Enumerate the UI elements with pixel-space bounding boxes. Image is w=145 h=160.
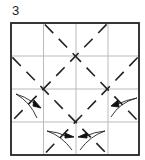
arrowhead-icon [78, 133, 87, 138]
grid-lines [11, 23, 139, 155]
arrowhead-icon [33, 100, 41, 108]
fold-arrow-right [111, 98, 137, 117]
arrowhead-icon [111, 100, 119, 107]
fold-diagram [0, 0, 145, 160]
arrowhead-icon [65, 133, 74, 138]
fold-arrow-left [16, 94, 41, 118]
